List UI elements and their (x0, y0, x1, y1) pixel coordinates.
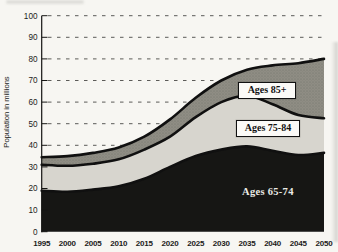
y-tick-label: 40 (28, 141, 38, 150)
y-tick-label: 90 (28, 33, 38, 42)
x-tick-label: 2015 (136, 239, 154, 248)
age-group-label-85plus: Ages 85+ (238, 82, 296, 99)
y-tick-label: 50 (28, 120, 38, 129)
x-tick-label: 2040 (264, 239, 282, 248)
scan-artifact-top-text (6, 0, 84, 4)
x-tick-label: 2020 (162, 239, 180, 248)
y-tick-label: 10 (28, 206, 38, 215)
y-tick-label: 70 (28, 76, 38, 85)
scan-edge-shadow (331, 42, 338, 242)
age-group-label-65-74: Ages 65-74 (242, 186, 294, 197)
y-tick-label: 20 (28, 184, 38, 193)
y-tick-label: 30 (28, 163, 38, 172)
age-group-label-75-84: Ages 75-84 (236, 120, 300, 137)
x-tick-label: 2000 (59, 239, 77, 248)
y-tick-label: 0 (33, 228, 38, 237)
x-tick-label: 2005 (85, 239, 103, 248)
y-tick-labels: 0102030405060708090100 (24, 12, 38, 237)
x-tick-labels: 1995200020052010201520202025203020352040… (33, 239, 333, 248)
y-tick-label: 60 (28, 98, 38, 107)
x-tick-label: 2035 (238, 239, 256, 248)
x-tick-label: 2025 (187, 239, 205, 248)
x-tick-label: 2045 (290, 239, 308, 248)
y-tick-label: 100 (24, 12, 38, 21)
y-axis-title: Population in millions (2, 76, 11, 148)
y-tick-label: 80 (28, 55, 38, 64)
x-tick-label: 1995 (33, 239, 51, 248)
x-tick-label: 2030 (213, 239, 231, 248)
population-area-chart: 0102030405060708090100 19952000200520102… (0, 0, 338, 252)
x-tick-label: 2010 (110, 239, 128, 248)
